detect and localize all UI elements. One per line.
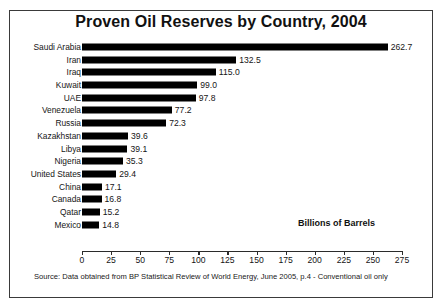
x-axis-tick-label: 0 [80, 255, 85, 265]
bar [82, 183, 102, 190]
x-axis-tick-label: 100 [191, 255, 205, 265]
category-label: Venezuela [42, 105, 81, 115]
bar-row: Mexico14.8 [0, 219, 444, 232]
bar [82, 171, 116, 178]
x-axis-tick-label: 225 [337, 255, 351, 265]
bar [82, 120, 166, 127]
category-label: UAE [64, 93, 81, 103]
bar [82, 107, 172, 114]
bar-value-label: 39.1 [130, 144, 147, 154]
bar [82, 56, 236, 63]
category-label: Mexico [54, 220, 81, 230]
bar-value-label: 115.0 [219, 67, 240, 77]
category-label: United States [31, 169, 81, 179]
bar-row: Canada16.8 [0, 193, 444, 206]
category-label: Qatar [60, 207, 81, 217]
bar-value-label: 14.8 [102, 220, 119, 230]
x-axis-tick-label: 75 [164, 255, 174, 265]
bar-row: Qatar15.2 [0, 206, 444, 219]
bar-row: Venezuela77.2 [0, 104, 444, 117]
source-note: Source: Data obtained from BP Statistica… [34, 272, 388, 281]
category-label: Libya [61, 144, 81, 154]
bar-value-label: 72.3 [169, 118, 186, 128]
category-label: Kuwait [56, 80, 81, 90]
x-axis-tick-label: 250 [366, 255, 380, 265]
bar-value-label: 99.0 [200, 80, 217, 90]
bar [82, 69, 216, 76]
bar [82, 196, 102, 203]
bar [82, 209, 100, 216]
bar [82, 158, 123, 165]
bar-row: Russia72.3 [0, 117, 444, 130]
category-label: Kazakhstan [37, 131, 81, 141]
bar-row: UAE97.8 [0, 91, 444, 104]
category-label: Russia [55, 118, 81, 128]
bar-value-label: 39.6 [131, 131, 148, 141]
x-axis-tick-label: 175 [278, 255, 292, 265]
x-axis-tick-label: 25 [106, 255, 116, 265]
bar [82, 82, 197, 89]
bar-value-label: 97.8 [199, 93, 216, 103]
x-axis-tick-label: 125 [220, 255, 234, 265]
bar-value-label: 77.2 [175, 105, 192, 115]
category-label: China [59, 182, 81, 192]
bar-row: Kuwait99.0 [0, 79, 444, 92]
bar-row: China17.1 [0, 180, 444, 193]
bar-value-label: 132.5 [239, 55, 261, 65]
category-label: Saudi Arabia [34, 42, 82, 52]
bar-value-label: 15.2 [103, 207, 120, 217]
bar [82, 43, 388, 50]
bar-row: Iraq115.0 [0, 66, 444, 79]
x-axis-tick-label: 200 [308, 255, 322, 265]
bar-row: United States29.4 [0, 168, 444, 181]
bar [82, 94, 196, 101]
bar-value-label: 16.8 [105, 194, 122, 204]
x-axis-line [82, 251, 402, 252]
bar [82, 132, 128, 139]
category-label: Canada [52, 194, 81, 204]
bar-row: Saudi Arabia262.7 [0, 41, 444, 54]
x-axis-title: Billions of Barrels [298, 218, 375, 228]
bar-row: Iran132.5 [0, 53, 444, 66]
bar [82, 145, 127, 152]
category-label: Nigeria [54, 156, 81, 166]
bar-value-label: 35.3 [126, 156, 143, 166]
category-label: Iran [67, 55, 81, 65]
x-axis-tick-label: 50 [135, 255, 145, 265]
bar-row: Kazakhstan39.6 [0, 130, 444, 143]
x-axis-tick-label: 150 [249, 255, 263, 265]
bar-value-label: 29.4 [119, 169, 136, 179]
bar-row: Nigeria35.3 [0, 155, 444, 168]
bar-row: Libya39.1 [0, 142, 444, 155]
x-axis-tick-label: 275 [395, 255, 409, 265]
bar-value-label: 17.1 [105, 182, 122, 192]
category-label: Iraq [67, 67, 81, 77]
bar-value-label: 262.7 [391, 42, 413, 52]
bar [82, 221, 99, 228]
